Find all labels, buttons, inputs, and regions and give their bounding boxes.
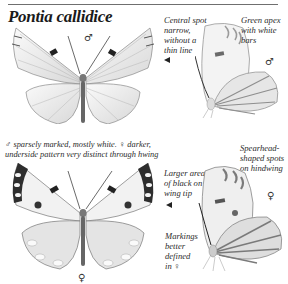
female-symbol: ♀ (78, 272, 85, 283)
male-symbol: ♂ (84, 32, 93, 43)
species-title: Pontia callidice (8, 7, 112, 27)
markings-better-note: Markings better defined in ♀ (165, 231, 198, 271)
female-symbol: ♀ (267, 190, 274, 201)
female-underside-illustration (195, 165, 287, 277)
green-apex-note: Green apex with white bars (241, 15, 281, 45)
central-spot-note: Central spot narrow, without a thin line (164, 15, 207, 55)
female-upperside-illustration (8, 163, 158, 271)
pointer-arrow (164, 57, 170, 63)
top-rule (8, 4, 278, 5)
pointer-arrow (166, 202, 172, 208)
male-symbol: ♂ (265, 56, 274, 67)
sex-difference-caption: ♂ sparsely marked, mostly white. ♀ darke… (5, 140, 158, 160)
male-upperside-illustration (8, 26, 158, 124)
